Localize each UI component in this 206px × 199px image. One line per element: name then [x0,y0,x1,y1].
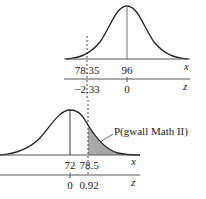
bottom-z-mean: 0 [67,179,73,191]
bottom-tick-mean: 72 [65,159,76,171]
bottom-z-cut: 0.92 [79,179,98,191]
top-tick-mean: 96 [122,64,134,76]
top-tick-cut: 78.35 [75,64,100,76]
bottom-x-label: x [130,155,136,167]
bottom-z-label: z [130,176,136,188]
shaded-region-annotation: P(gwall Math II) [114,125,188,138]
bottom-tick-cut: 78.5 [79,159,99,171]
top-z-cut: −2.33 [74,83,100,95]
top-x-label: x [183,60,189,72]
charts-svg: 78.35 96 x −2.33 0 z P(gwall Math II) 72… [0,0,206,199]
normal-distribution-figure: 78.35 96 x −2.33 0 z P(gwall Math II) 72… [0,0,206,199]
top-z-label: z [182,80,188,92]
annotation-leader-line [100,134,113,142]
bottom-chart: P(gwall Math II) 72 78.5 x 0 0.92 z [0,100,188,191]
top-chart: 78.35 96 x −2.33 0 z [64,6,190,100]
top-z-mean: 0 [124,83,130,95]
